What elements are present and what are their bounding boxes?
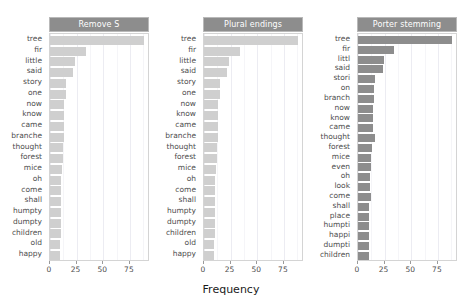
y-tick-label: old xyxy=(154,238,200,249)
y-tick-label: shall xyxy=(308,201,354,211)
y-tick-label: mice xyxy=(154,163,200,174)
bar-row xyxy=(204,250,302,261)
y-tick-label: mice xyxy=(308,152,354,162)
y-tick-label: humpti xyxy=(308,220,354,230)
bar xyxy=(50,133,64,142)
facet-panel-plural-endings: Plural endings treefirlittlesaidstoryone… xyxy=(154,0,308,278)
bar xyxy=(50,122,64,131)
bar xyxy=(50,111,64,120)
y-tick-label: littl xyxy=(308,54,354,64)
bar-row xyxy=(358,35,456,45)
y-tick-label: oh xyxy=(0,174,46,185)
bar xyxy=(358,85,374,93)
bar-row xyxy=(50,218,148,229)
y-tick-label: know xyxy=(0,109,46,120)
facet-strip-plural-endings: Plural endings xyxy=(203,17,303,32)
bar-series-remove-s xyxy=(50,34,148,260)
y-tick-label: came xyxy=(308,122,354,132)
bar-row xyxy=(358,45,456,55)
x-tick-mark xyxy=(102,261,103,264)
y-tick-label: on xyxy=(308,83,354,93)
bar-row xyxy=(50,35,148,46)
y-tick-label: came xyxy=(0,120,46,131)
y-tick-label: oh xyxy=(154,174,200,185)
x-tick-label: 0 xyxy=(201,265,206,274)
y-tick-label: one xyxy=(154,88,200,99)
bar xyxy=(358,154,371,162)
bar xyxy=(358,193,371,201)
bar xyxy=(50,68,73,77)
bar-row xyxy=(358,153,456,163)
bar-row xyxy=(358,251,456,261)
y-tick-label: little xyxy=(0,56,46,67)
bar-row xyxy=(50,57,148,68)
bar xyxy=(204,154,217,163)
bar xyxy=(50,36,144,45)
bar xyxy=(204,165,216,174)
bar-row xyxy=(50,196,148,207)
y-tick-label: said xyxy=(308,63,354,73)
bar-row xyxy=(204,186,302,197)
y-tick-label: children xyxy=(308,250,354,260)
y-tick-label: fir xyxy=(154,45,200,56)
bar xyxy=(358,46,394,54)
bar xyxy=(50,208,61,217)
bar xyxy=(358,252,369,260)
bar-series-porter-stemming xyxy=(358,34,456,260)
bar xyxy=(358,56,384,64)
y-tick-label: mice xyxy=(0,163,46,174)
bar-row xyxy=(50,164,148,175)
bar xyxy=(358,75,375,83)
bar-row xyxy=(50,100,148,111)
bar-row xyxy=(358,114,456,124)
y-axis-labels-porter-stemming: treefirlittlsaidstorionbranchnowknowcame… xyxy=(308,33,354,261)
y-tick-label: branche xyxy=(0,131,46,142)
bar-row xyxy=(204,218,302,229)
y-tick-label: humpty xyxy=(0,206,46,217)
bar xyxy=(204,186,215,195)
x-tick-mark xyxy=(384,261,385,264)
plot-area-plural-endings xyxy=(203,33,303,261)
y-tick-label: know xyxy=(308,113,354,123)
bar-row xyxy=(204,46,302,57)
bar xyxy=(50,47,86,56)
x-tick-label: 75 xyxy=(278,265,288,274)
x-tick-label: 25 xyxy=(71,265,81,274)
bar-row xyxy=(50,207,148,218)
x-tick-label: 0 xyxy=(47,265,52,274)
bar xyxy=(204,197,215,206)
bar-row xyxy=(358,123,456,133)
bar-row xyxy=(204,207,302,218)
bar xyxy=(50,154,63,163)
y-tick-label: shall xyxy=(154,195,200,206)
bar-row xyxy=(50,186,148,197)
bar-row xyxy=(204,229,302,240)
bar xyxy=(204,143,217,152)
y-tick-label: shall xyxy=(0,195,46,206)
bar-row xyxy=(204,175,302,186)
y-tick-label: now xyxy=(0,99,46,110)
y-tick-label: look xyxy=(308,181,354,191)
bar xyxy=(358,232,369,240)
bar xyxy=(204,100,218,109)
y-tick-label: humpty xyxy=(154,206,200,217)
bar xyxy=(50,251,60,260)
bar xyxy=(50,90,66,99)
bar-row xyxy=(204,57,302,68)
y-tick-label: now xyxy=(308,103,354,113)
bar-row xyxy=(50,110,148,121)
bar-row xyxy=(358,55,456,65)
y-tick-label: came xyxy=(154,120,200,131)
bar-row xyxy=(50,175,148,186)
x-tick-mark xyxy=(129,261,130,264)
bar xyxy=(358,213,369,221)
bar-row xyxy=(50,229,148,240)
y-tick-label: forest xyxy=(308,142,354,152)
x-tick-mark xyxy=(357,261,358,264)
bar-row xyxy=(358,172,456,182)
bar-row xyxy=(204,121,302,132)
x-tick-mark xyxy=(256,261,257,264)
bar xyxy=(358,222,369,230)
y-tick-label: forest xyxy=(154,152,200,163)
bar xyxy=(204,47,240,56)
